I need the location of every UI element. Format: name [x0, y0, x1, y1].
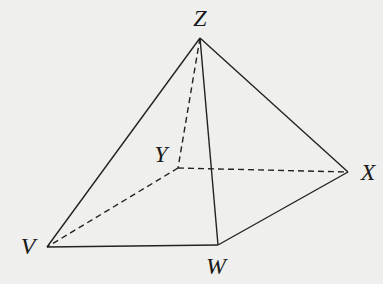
hidden-edge-z-y — [178, 38, 200, 168]
vertex-label-v: V — [21, 233, 38, 259]
hidden-edge-y-x — [178, 168, 348, 172]
hidden-edge-y-v — [47, 168, 178, 247]
edge-v-w — [47, 245, 218, 247]
vertex-label-z: Z — [193, 5, 207, 31]
edge-z-w — [200, 38, 218, 245]
edges — [47, 38, 348, 247]
vertex-label-w: W — [206, 253, 228, 279]
vertex-label-y: Y — [154, 141, 170, 167]
vertex-label-x: X — [360, 159, 377, 185]
edge-z-x — [200, 38, 348, 172]
pyramid-diagram: Z Y X V W — [0, 0, 383, 284]
edge-z-v — [47, 38, 200, 247]
vertex-labels: Z Y X V W — [21, 5, 377, 279]
edge-w-x — [218, 172, 348, 245]
